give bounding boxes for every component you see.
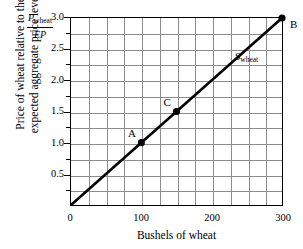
y-axis-minor-tick bbox=[66, 127, 70, 128]
y-axis-tick-label: 2.5 bbox=[51, 43, 64, 54]
data-point-c bbox=[173, 108, 180, 115]
wheat-supply-chart-figure: Pwheat EP Price of wheat relative to the… bbox=[0, 0, 303, 249]
x-axis-tick-label: 0 bbox=[67, 212, 72, 223]
data-point-b bbox=[278, 14, 285, 21]
y-axis-minor-tick bbox=[66, 159, 70, 160]
y-axis-tick bbox=[64, 49, 70, 50]
y-axis-tick bbox=[64, 143, 70, 144]
y-axis-minor-tick bbox=[66, 64, 70, 65]
y-axis-tick-label: 3.0 bbox=[51, 12, 64, 23]
y-axis-title-line-2: expected aggregate price level bbox=[27, 0, 41, 150]
y-axis-title: Price of wheat relative to the expected … bbox=[14, 0, 41, 150]
point-label-c: C bbox=[164, 97, 171, 108]
y-axis-tick bbox=[64, 17, 70, 18]
y-axis-minor-tick bbox=[66, 33, 70, 34]
y-axis-title-line-1: Price of wheat relative to the bbox=[14, 0, 28, 150]
x-axis-tick-label: 300 bbox=[275, 212, 291, 223]
y-axis-tick-label: 1.5 bbox=[51, 106, 64, 117]
x-axis-tick-label: 200 bbox=[204, 212, 220, 223]
x-axis-tick-label: 100 bbox=[133, 212, 149, 223]
point-label-a: A bbox=[128, 128, 136, 139]
y-axis-minor-tick bbox=[66, 96, 70, 97]
curve-label-subscript: wheat bbox=[240, 55, 258, 64]
y-axis-tick bbox=[64, 80, 70, 81]
y-axis-minor-tick bbox=[66, 190, 70, 191]
x-axis-title: Bushels of wheat bbox=[70, 229, 283, 242]
y-axis-tick bbox=[64, 112, 70, 113]
y-axis-tick-label: 2.0 bbox=[51, 75, 64, 86]
y-axis-tick bbox=[64, 175, 70, 176]
y-axis-tick-label: 1.0 bbox=[51, 138, 64, 149]
point-label-b: B bbox=[290, 19, 297, 30]
curve-label-s-wheat: Swheat bbox=[235, 51, 258, 65]
data-point-a bbox=[138, 139, 145, 146]
supply-curve-svg bbox=[71, 18, 282, 205]
y-axis-tick-label: 0.5 bbox=[51, 169, 64, 180]
plot-area bbox=[70, 17, 283, 206]
